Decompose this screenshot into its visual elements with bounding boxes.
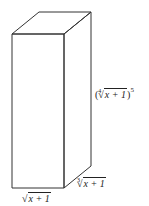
height-label: (4√x + 1)5: [95, 86, 134, 100]
exponent: 5: [130, 86, 134, 94]
width-label: √x + 1: [22, 192, 51, 204]
top-face: [12, 12, 91, 34]
radicand: x + 1: [28, 192, 51, 204]
depth-label: 3√x + 1: [77, 177, 106, 189]
front-face: [12, 34, 64, 188]
prism-drawing: [0, 0, 149, 206]
side-face: [64, 12, 91, 188]
radicand: x + 1: [83, 177, 106, 189]
radicand: x + 1: [104, 88, 127, 100]
